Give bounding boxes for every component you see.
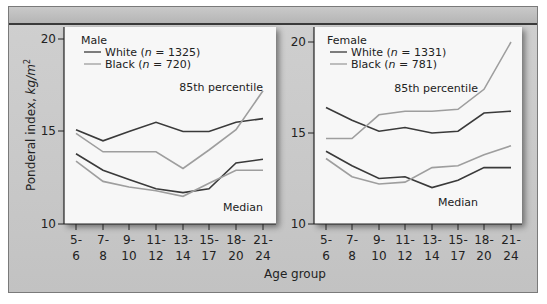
- male-median-label: Median: [223, 201, 263, 214]
- male-xtick-label-top: 13-: [173, 233, 193, 247]
- female-xtick-label-top: 9-: [373, 233, 385, 247]
- female-ytick-15: 15: [291, 126, 306, 140]
- female-xtick-label-top: 15-: [448, 233, 468, 247]
- male-xtick-label-bottom: 14: [175, 249, 190, 263]
- female-xtick-label-bottom: 17: [450, 249, 465, 263]
- female-xtick-label-top: 18-: [474, 233, 494, 247]
- female-legend: Female White (n = 1331) Black (n = 781): [327, 34, 446, 71]
- male-85th-label: 85th percentile: [179, 81, 263, 94]
- female-xtick-label-top: 11-: [395, 233, 415, 247]
- male-plot-lines: [76, 91, 263, 197]
- female-xtick-label-bottom: 12: [397, 249, 412, 263]
- male-title: Male: [81, 34, 107, 47]
- female-ytick-10: 10: [291, 217, 306, 231]
- female-ytick-20: 20: [291, 35, 306, 49]
- male-series-black-85th-percentile: [76, 91, 263, 169]
- female-xtick-label-bottom: 10: [371, 249, 386, 263]
- female-xtick-label-top: 21-: [501, 233, 521, 247]
- male-xtick-label-bottom: 20: [228, 249, 243, 263]
- male-xtick-label-top: 21-: [253, 233, 273, 247]
- x-axis-label: Age group: [264, 267, 326, 281]
- female-xtick-label-bottom: 14: [424, 249, 439, 263]
- male-xtick-label-top: 7-: [97, 233, 109, 247]
- female-xtick-label-bottom: 6: [322, 249, 330, 263]
- male-xtick-label-bottom: 12: [148, 249, 163, 263]
- male-ytick-10: 10: [41, 217, 56, 231]
- male-xtick-label-bottom: 10: [121, 249, 136, 263]
- female-xtick-label-bottom: 8: [348, 249, 356, 263]
- female-85th-label: 85th percentile: [394, 82, 478, 95]
- male-xtick-label-top: 18-: [226, 233, 246, 247]
- female-median-label: Median: [438, 196, 478, 209]
- male-xtick-label-bottom: 6: [72, 249, 80, 263]
- female-series-white-median: [326, 151, 511, 187]
- female-xtick-label-top: 7-: [346, 233, 358, 247]
- male-legend-black: Black (n = 720): [105, 58, 191, 71]
- female-series-black-median: [326, 146, 511, 184]
- male-xtick-label-bottom: 24: [255, 249, 270, 263]
- female-xtick-label-top: 5-: [320, 233, 332, 247]
- male-xtick-label-top: 15-: [199, 233, 219, 247]
- male-xtick-label-bottom: 17: [201, 249, 216, 263]
- male-ytick-15: 15: [41, 124, 56, 138]
- female-xtick-label-bottom: 20: [476, 249, 491, 263]
- female-legend-black: Black (n = 781): [351, 58, 437, 71]
- y-axis-label: Ponderal index, kg/m2: [23, 59, 38, 191]
- female-xtick-label-bottom: 24: [503, 249, 518, 263]
- chart-svg: Ponderal index, kg/m2 20 15 10 5-67-89-1…: [0, 0, 547, 304]
- male-legend: Male White (n = 1325) Black (n = 720): [81, 34, 200, 71]
- male-ytick-20: 20: [41, 32, 56, 46]
- male-xtick-label-top: 5-: [70, 233, 82, 247]
- male-xtick-label-bottom: 8: [99, 249, 107, 263]
- male-xtick-label-top: 9-: [123, 233, 135, 247]
- female-xtick-label-top: 13-: [422, 233, 442, 247]
- male-xtick-label-top: 11-: [146, 233, 166, 247]
